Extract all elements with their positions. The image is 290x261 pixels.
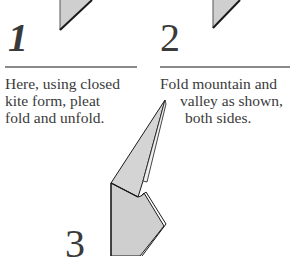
step-1-divider [5, 66, 137, 68]
step-1-number: 1 [8, 18, 28, 58]
step-2-caption-line: both sides. [160, 109, 283, 126]
step-1-caption-line: fold and unfold. [5, 109, 120, 126]
step-2-caption-line: valley as shown, [160, 92, 283, 109]
step-2-caption-line: Fold mountain and [160, 75, 283, 92]
step-1-figure [60, 0, 92, 30]
step-2-divider [160, 66, 290, 68]
step-1-caption: Here, using closed kite form, pleat fold… [5, 75, 120, 126]
step-2-figure [213, 0, 240, 28]
step-2-number: 2 [160, 18, 180, 58]
step-2-caption: Fold mountain and valley as shown, both … [160, 75, 283, 126]
step-1-caption-line: Here, using closed [5, 75, 120, 92]
step-3-number: 3 [65, 224, 85, 261]
step-1-caption-line: kite form, pleat [5, 92, 120, 109]
